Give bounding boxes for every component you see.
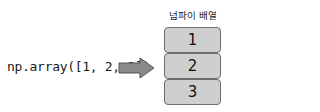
array-cell-3: 3 [164,79,221,105]
array-cell-1: 1 [164,27,221,53]
right-arrow-icon [118,57,155,79]
array-title: 넘파이 배열 [164,8,222,22]
array-cell-2: 2 [164,53,221,79]
